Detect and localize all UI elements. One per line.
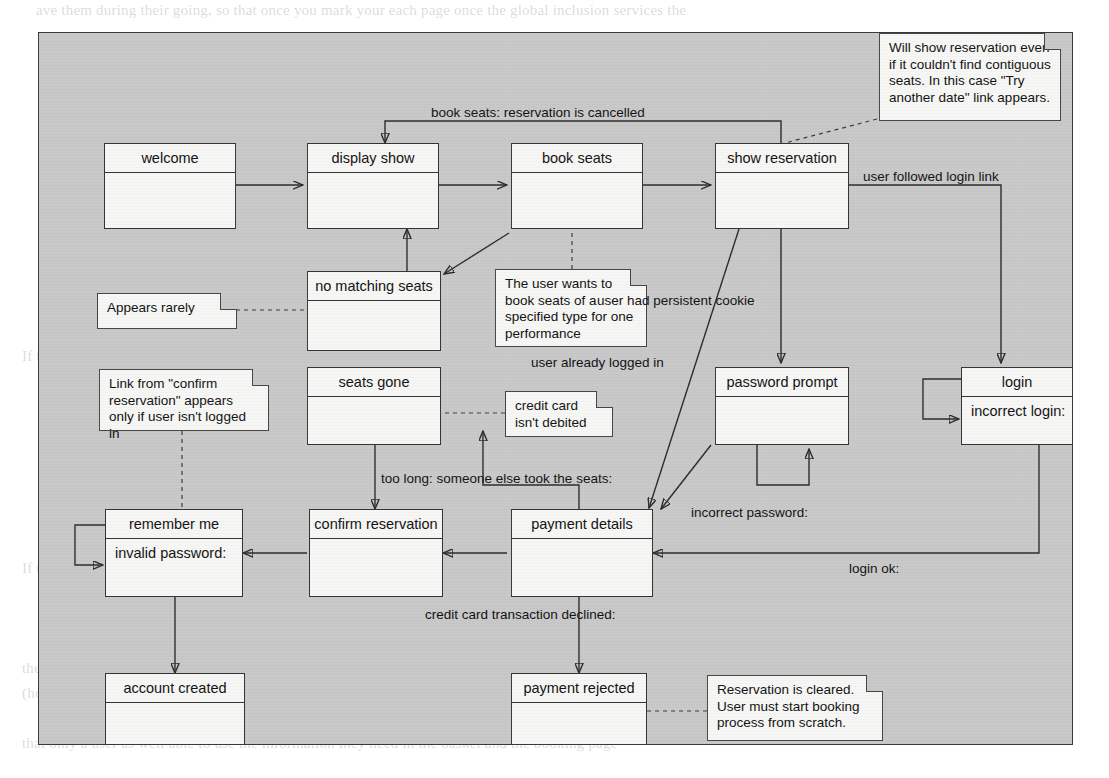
note-text: The user wants to book seats of a specif… [505,276,633,341]
state-title: show reservation [716,144,848,173]
note-show-reservation: Will show reservation even if it couldn'… [879,33,1061,121]
edge-label-cancel: book seats: reservation is cancelled [431,105,645,120]
state-body: incorrect login: [962,397,1072,444]
edge-label-persistent-cookie: user had persistent cookie [597,293,755,308]
edge-label-too-long: too long: someone else took the seats: [381,471,612,486]
state-body [105,173,235,228]
note-confirm-link: Link from "confirm reservation" appears … [99,369,269,431]
state-body [310,539,442,596]
note-text: Link from "confirm reservation" appears … [109,376,246,441]
edge-label-card-declined: credit card transaction declined: [425,607,616,622]
state-title: display show [308,144,438,173]
note-fold-icon [252,369,269,386]
state-body [716,397,848,444]
state-diagram: welcome display show book seats show res… [38,32,1073,745]
state-title: payment rejected [512,674,646,703]
note-text: Reservation is cleared. User must start … [717,682,860,730]
state-title: payment details [512,510,652,539]
state-body [716,173,848,228]
state-remember-me[interactable]: remember me invalid password: [105,509,243,597]
state-body: invalid password: [106,539,242,596]
state-show-reservation[interactable]: show reservation [715,143,849,229]
note-text: Appears rarely [107,300,195,315]
state-title: confirm reservation [310,510,442,539]
state-title: account created [106,674,244,703]
state-title: book seats [512,144,642,173]
note-book-seats: The user wants to book seats of a specif… [495,269,647,347]
note-appears-rarely: Appears rarely [97,293,237,329]
note-fold-icon [866,675,883,692]
state-payment-rejected[interactable]: payment rejected [511,673,647,745]
state-payment-details[interactable]: payment details [511,509,653,597]
edge-incorrect-password-loop [757,445,809,485]
state-no-matching-seats[interactable]: no matching seats [307,271,441,351]
state-title: password prompt [716,368,848,397]
edge-remember-me-loop [75,525,107,565]
state-body [308,397,440,444]
state-title: remember me [106,510,242,539]
note-text: Will show reservation even if it couldn'… [889,40,1051,105]
state-welcome[interactable]: welcome [104,143,236,229]
state-title: login [962,368,1072,397]
state-body [512,703,646,744]
state-body [512,539,652,596]
state-body [308,173,438,228]
note-fold-icon [630,269,647,286]
state-title: no matching seats [308,272,440,301]
note-text: credit card isn't debited [515,398,587,430]
state-title: seats gone [308,368,440,397]
edge-incorrect-login-loop [923,379,963,419]
state-seats-gone[interactable]: seats gone [307,367,441,445]
state-body [512,173,642,228]
screenshot-page: ave them during their going, so that onc… [0,0,1109,778]
note-fold-icon [1044,33,1061,50]
note-credit-card: credit card isn't debited [505,391,613,437]
note-payment-rejected: Reservation is cleared. User must start … [707,675,883,741]
state-book-seats[interactable]: book seats [511,143,643,229]
note-fold-icon [220,293,237,310]
state-account-created[interactable]: account created [105,673,245,745]
state-title: welcome [105,144,235,173]
state-display-show[interactable]: display show [307,143,439,229]
edge-show-reservation-to-login [849,185,1001,363]
edge-label-already-logged-in: user already logged in [531,355,664,370]
state-body [308,301,440,350]
note-fold-icon [596,391,613,408]
edge-password-prompt-to-payment-details [661,445,711,509]
state-body [106,703,244,744]
state-password-prompt[interactable]: password prompt [715,367,849,445]
edge-login-ok-to-payment-details [653,445,1039,553]
state-login[interactable]: login incorrect login: [961,367,1073,445]
edge-label-login-ok: login ok: [849,561,899,576]
bleed-text-line: ave them during their going, so that onc… [36,2,1096,19]
edge-label-login-link: user followed login link [863,169,999,184]
edge-label-incorrect-password: incorrect password: [691,505,808,520]
edge-book-seats-to-no-matching-seats [444,233,509,274]
state-confirm-reservation[interactable]: confirm reservation [309,509,443,597]
